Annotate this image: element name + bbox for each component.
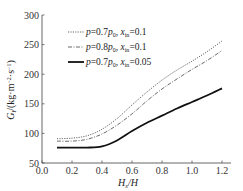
series-line-dotted xyxy=(57,41,222,139)
x-tick-label: 0.8 xyxy=(156,165,169,176)
y-tick-label: 150 xyxy=(24,98,39,109)
y-tick-label: 200 xyxy=(24,69,39,80)
x-axis-label: Hs/H xyxy=(117,177,139,189)
y-tick-label: 300 xyxy=(24,10,39,21)
x-tick-label: 0.2 xyxy=(66,165,79,176)
series-line-solid xyxy=(57,88,222,147)
y-tick-label: 50 xyxy=(29,158,39,169)
y-axis-label: Gl/(kg·m−2·s−1) xyxy=(5,60,17,120)
y-tick-label: 100 xyxy=(24,128,39,139)
legend: p=0.7p0, xin=0.1 p=0.8p0, xin=0.1 p=0.7p… xyxy=(68,27,152,68)
line-chart: 0.00.20.40.60.81.01.250100150200250300 p… xyxy=(0,0,243,191)
x-tick-label: 0.6 xyxy=(126,165,139,176)
legend-entry-1: p=0.7p0, xin=0.1 xyxy=(85,27,147,38)
legend-entry-3: p=0.7p0, xin=0.05 xyxy=(85,57,152,68)
x-tick-label: 1.2 xyxy=(216,165,229,176)
x-tick-label: 1.0 xyxy=(186,165,199,176)
legend-entry-2: p=0.8p0, xin=0.1 xyxy=(85,42,147,53)
x-tick-label: 0.4 xyxy=(96,165,109,176)
y-tick-label: 250 xyxy=(24,39,39,50)
axes xyxy=(42,15,231,163)
